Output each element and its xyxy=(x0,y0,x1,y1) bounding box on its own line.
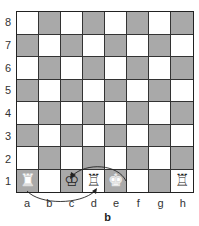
square-c8 xyxy=(61,12,83,35)
square-f2 xyxy=(127,147,149,170)
figure-caption: b xyxy=(0,211,199,223)
square-e3 xyxy=(105,125,127,148)
square-e2 xyxy=(105,147,127,170)
square-b5 xyxy=(39,80,61,103)
square-a4 xyxy=(17,102,39,125)
square-e5 xyxy=(105,80,127,103)
square-f3 xyxy=(127,125,149,148)
square-c5 xyxy=(61,80,83,103)
file-label-e: e xyxy=(105,197,127,209)
square-e4 xyxy=(105,102,127,125)
chess-board: ♜♔♖♚♖ xyxy=(16,11,194,193)
square-h1: ♖ xyxy=(171,170,193,193)
square-h2 xyxy=(171,147,193,170)
file-label-b: b xyxy=(38,197,60,209)
square-b3 xyxy=(39,125,61,148)
square-c1: ♔ xyxy=(61,170,83,193)
file-label-a: a xyxy=(16,197,38,209)
square-a5 xyxy=(17,80,39,103)
square-d8 xyxy=(83,12,105,35)
square-e6 xyxy=(105,57,127,80)
square-g8 xyxy=(149,12,171,35)
square-h8 xyxy=(171,12,193,35)
square-f5 xyxy=(127,80,149,103)
file-label-d: d xyxy=(83,197,105,209)
square-e7 xyxy=(105,35,127,58)
square-h6 xyxy=(171,57,193,80)
file-label-f: f xyxy=(127,197,149,209)
square-h4 xyxy=(171,102,193,125)
square-e8 xyxy=(105,12,127,35)
square-d6 xyxy=(83,57,105,80)
square-g5 xyxy=(149,80,171,103)
square-a6 xyxy=(17,57,39,80)
square-a1: ♜ xyxy=(17,170,39,193)
square-f7 xyxy=(127,35,149,58)
square-b8 xyxy=(39,12,61,35)
square-f4 xyxy=(127,102,149,125)
rook-icon: ♖ xyxy=(174,172,189,189)
rank-label-4: 4 xyxy=(3,107,13,119)
rank-label-5: 5 xyxy=(3,84,13,96)
square-c2 xyxy=(61,147,83,170)
square-d2 xyxy=(83,147,105,170)
rook-icon: ♖ xyxy=(86,172,101,189)
square-c6 xyxy=(61,57,83,80)
square-g2 xyxy=(149,147,171,170)
file-label-h: h xyxy=(172,197,194,209)
square-g7 xyxy=(149,35,171,58)
square-b2 xyxy=(39,147,61,170)
king-icon: ♔ xyxy=(64,172,79,189)
rank-label-2: 2 xyxy=(3,153,13,165)
rank-label-1: 1 xyxy=(3,175,13,187)
square-d7 xyxy=(83,35,105,58)
square-h3 xyxy=(171,125,193,148)
rank-label-8: 8 xyxy=(3,16,13,28)
square-g4 xyxy=(149,102,171,125)
square-h5 xyxy=(171,80,193,103)
square-e1: ♚ xyxy=(105,170,127,193)
square-g1 xyxy=(149,170,171,193)
square-g6 xyxy=(149,57,171,80)
rank-label-7: 7 xyxy=(3,39,13,51)
square-a8 xyxy=(17,12,39,35)
square-a7 xyxy=(17,35,39,58)
square-b1 xyxy=(39,170,61,193)
rank-label-3: 3 xyxy=(3,130,13,142)
square-f8 xyxy=(127,12,149,35)
square-b6 xyxy=(39,57,61,80)
square-a2 xyxy=(17,147,39,170)
square-c4 xyxy=(61,102,83,125)
square-c7 xyxy=(61,35,83,58)
rank-label-6: 6 xyxy=(3,62,13,74)
rook-icon: ♜ xyxy=(20,172,35,189)
square-f6 xyxy=(127,57,149,80)
square-g3 xyxy=(149,125,171,148)
square-h7 xyxy=(171,35,193,58)
square-d4 xyxy=(83,102,105,125)
square-d1: ♖ xyxy=(83,170,105,193)
file-label-g: g xyxy=(150,197,172,209)
square-c3 xyxy=(61,125,83,148)
square-f1 xyxy=(127,170,149,193)
square-b7 xyxy=(39,35,61,58)
square-b4 xyxy=(39,102,61,125)
square-d5 xyxy=(83,80,105,103)
square-d3 xyxy=(83,125,105,148)
square-a3 xyxy=(17,125,39,148)
file-label-c: c xyxy=(61,197,83,209)
king-icon: ♚ xyxy=(108,172,123,189)
